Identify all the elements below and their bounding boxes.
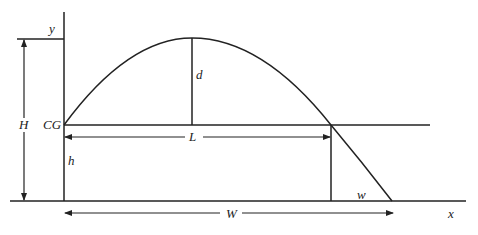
trajectory-diagram: y H CG h d L W w x bbox=[0, 0, 478, 235]
label-d: d bbox=[196, 67, 203, 82]
label-x: x bbox=[447, 206, 454, 221]
label-CG: CG bbox=[43, 117, 62, 132]
label-W: W bbox=[226, 206, 238, 221]
label-H: H bbox=[18, 117, 29, 132]
trajectory-curve bbox=[64, 38, 392, 201]
label-L: L bbox=[188, 129, 196, 144]
label-y: y bbox=[47, 21, 55, 36]
label-w: w bbox=[357, 187, 366, 202]
label-h: h bbox=[68, 153, 75, 168]
